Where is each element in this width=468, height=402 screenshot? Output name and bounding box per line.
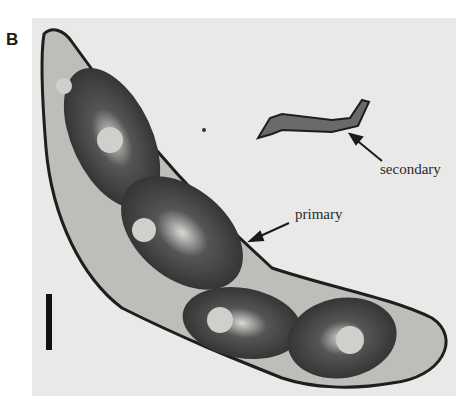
label-secondary: secondary [380, 161, 441, 178]
secondary-structure [258, 100, 369, 138]
specimen-illustration [32, 18, 456, 396]
arrow-primary [250, 223, 289, 241]
scale-bar [46, 294, 52, 350]
arrow-secondary [350, 134, 382, 161]
panel-label: B [6, 30, 18, 50]
micrograph-image [32, 18, 456, 396]
label-primary: primary [295, 206, 342, 223]
